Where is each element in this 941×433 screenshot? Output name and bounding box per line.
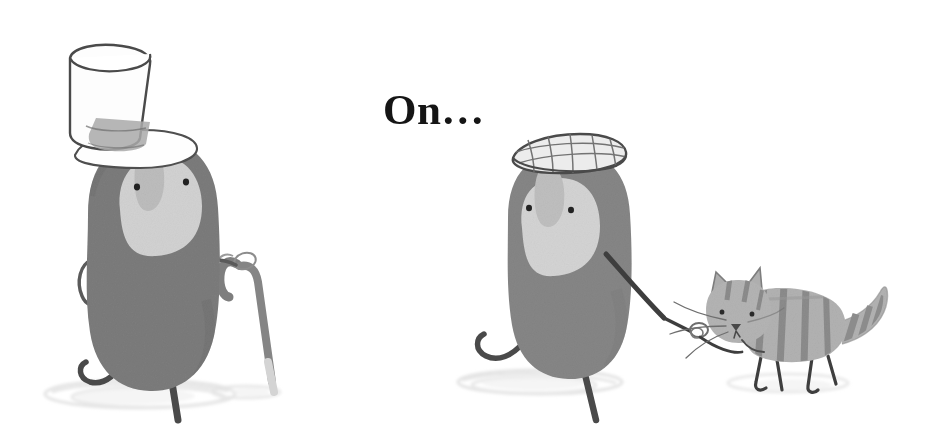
walking-cane bbox=[216, 250, 274, 392]
top-hat bbox=[70, 45, 197, 168]
eye-left bbox=[134, 184, 140, 191]
eye-right bbox=[183, 179, 189, 186]
gentleman-body bbox=[87, 139, 220, 391]
shadow-cat bbox=[728, 374, 848, 392]
gentleman-figure bbox=[70, 45, 236, 420]
illustration-canvas: On… bbox=[0, 0, 941, 433]
page-title: On… bbox=[383, 88, 485, 131]
flat-cap bbox=[513, 134, 627, 173]
cat-head bbox=[706, 278, 771, 343]
illustration-artwork bbox=[0, 0, 941, 433]
shadow-cap-figure bbox=[458, 370, 622, 394]
eye-right bbox=[568, 207, 574, 214]
eye-left bbox=[526, 205, 532, 212]
cat-eye-right bbox=[750, 311, 755, 316]
cat-tail bbox=[838, 287, 887, 346]
cat-eye-left bbox=[720, 309, 725, 314]
